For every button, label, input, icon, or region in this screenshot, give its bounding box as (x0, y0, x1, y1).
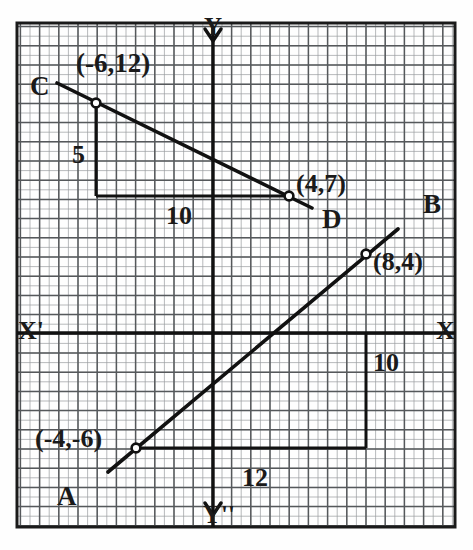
point-marker-d[interactable] (285, 192, 294, 201)
label-coord-a: (-4,-6) (35, 424, 102, 453)
label-coord-b: (8,4) (373, 247, 423, 276)
label-axis-y-bottom: Y'' (203, 501, 235, 528)
label-coord-d: (4,7) (296, 169, 346, 198)
point-marker-c[interactable] (92, 99, 101, 108)
label-axis-y-top: Y (204, 13, 222, 40)
label-point-b: B (423, 189, 441, 219)
point-marker-a[interactable] (132, 444, 141, 453)
label-axis-x-left: X' (18, 316, 44, 345)
label-point-d: D (322, 204, 342, 234)
label-point-a: A (57, 481, 77, 511)
label-coord-c: (-6,12) (76, 48, 150, 78)
point-marker-b[interactable] (362, 250, 371, 259)
label-run-cd: 10 (166, 201, 192, 230)
label-rise-ab: 10 (373, 348, 399, 377)
label-axis-x-right: X (436, 316, 455, 345)
label-run-ab: 12 (242, 463, 268, 492)
label-rise-cd: 5 (72, 140, 85, 169)
coordinate-plane-svg: C (-6,12) 5 10 (4,7) D B (8,4) 10 12 (-4… (0, 0, 473, 550)
label-point-c: C (30, 71, 50, 101)
graph-figure: C (-6,12) 5 10 (4,7) D B (8,4) 10 12 (-4… (0, 0, 473, 550)
